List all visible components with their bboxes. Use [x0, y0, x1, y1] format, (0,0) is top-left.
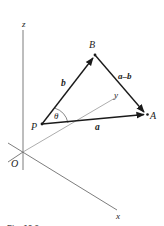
vector-b — [42, 58, 93, 124]
point-B-label: B — [89, 39, 95, 50]
origin-label: O — [11, 158, 18, 169]
vector-diagram: z y x O θ P B A b a–b a Fig. 10.2 — [0, 0, 164, 226]
vector-b-label: b — [61, 78, 66, 88]
y-axis-label: y — [113, 90, 118, 100]
vector-a-label: a — [95, 122, 100, 132]
point-P — [41, 123, 44, 126]
point-A-label: A — [149, 110, 157, 121]
vector-a-minus-b — [95, 55, 144, 112]
axes — [8, 30, 117, 210]
point-B — [94, 54, 97, 57]
angle-label: θ — [54, 111, 59, 121]
vector-a-minus-b-label: a–b — [118, 71, 132, 81]
z-axis-label: z — [21, 19, 26, 29]
figure-caption: Fig. 10.2 — [7, 223, 40, 226]
point-P-label: P — [30, 121, 37, 132]
point-A — [146, 113, 149, 116]
x-axis-label: x — [115, 211, 120, 221]
x-axis — [8, 143, 117, 210]
